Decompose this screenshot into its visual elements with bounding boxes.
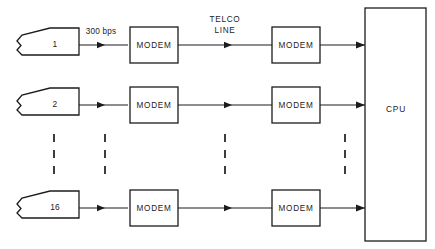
arrowhead-terminal-to-modem-2 — [97, 102, 105, 109]
modem-far-label-2: MODEM — [279, 101, 314, 110]
terminal-label-2: 2 — [53, 99, 58, 109]
modem-far-label-16: MODEM — [279, 204, 314, 213]
arrowhead-telco-16 — [224, 205, 232, 212]
arrowhead-telco-1 — [224, 42, 232, 49]
modem-near-label-16: MODEM — [137, 204, 172, 213]
arrowhead-terminal-to-modem-16 — [97, 205, 105, 212]
modem-far-label-1: MODEM — [279, 41, 314, 50]
rate-label-1: 300 bps — [86, 27, 117, 36]
terminal-shape-16[interactable] — [17, 191, 79, 218]
block-diagram-svg: 1 300 bps MODEM TELCO LINE MODEM 2 — [0, 0, 435, 249]
cpu-box[interactable] — [365, 8, 426, 241]
arrowhead-telco-2 — [224, 102, 232, 109]
terminal-label-1: 1 — [53, 39, 58, 49]
terminal-shape-2[interactable] — [17, 88, 79, 115]
telco-label-line2: LINE — [214, 26, 235, 35]
diagram-row-terminal-2: 2 MODEM MODEM — [17, 87, 365, 123]
block-diagram-canvas: 1 300 bps MODEM TELCO LINE MODEM 2 — [0, 0, 435, 249]
cpu-label: CPU — [386, 104, 406, 114]
terminal-label-16: 16 — [50, 202, 60, 212]
ellipsis-columns — [54, 134, 345, 174]
arrowhead-modem-to-cpu-16 — [356, 204, 365, 211]
arrowhead-modem-to-cpu-1 — [356, 41, 365, 48]
telco-label-line1: TELCO — [210, 15, 241, 24]
terminal-shape-1[interactable] — [17, 28, 79, 55]
arrowhead-terminal-to-modem-1 — [97, 42, 105, 49]
arrowhead-modem-to-cpu-2 — [356, 101, 365, 108]
modem-near-label-1: MODEM — [137, 41, 172, 50]
diagram-row-terminal-1: 1 300 bps MODEM TELCO LINE MODEM — [17, 15, 365, 63]
diagram-row-terminal-16: 16 MODEM MODEM — [17, 190, 365, 226]
modem-near-label-2: MODEM — [137, 101, 172, 110]
